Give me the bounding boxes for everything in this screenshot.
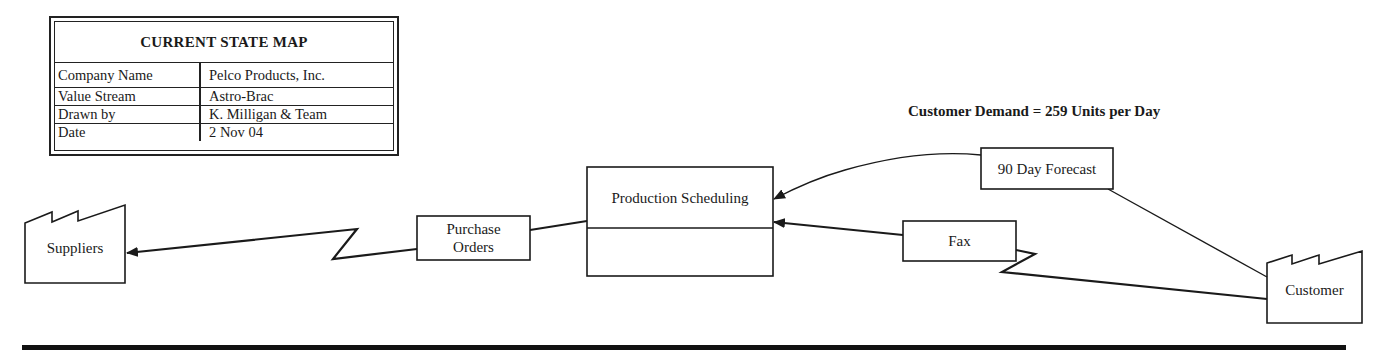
value-stream-label: Value Stream <box>55 88 200 106</box>
date-label: Date <box>55 124 200 142</box>
electronic-flow-customer-to-fax <box>1002 250 1267 299</box>
drawn-by-label: Drawn by <box>55 106 200 124</box>
bottom-rule <box>22 345 1346 350</box>
purchase-orders-line2: Orders <box>453 238 494 256</box>
fax-label: Fax <box>903 221 1016 261</box>
production-scheduling-label: Production Scheduling <box>587 167 773 228</box>
table-row: Date 2 Nov 04 <box>55 124 393 142</box>
title-block-table: Company Name Pelco Products, Inc. Value … <box>55 63 393 141</box>
date-value: 2 Nov 04 <box>200 124 393 142</box>
flow-customer-to-forecast <box>1108 189 1267 277</box>
customer-demand-label: Customer Demand = 259 Units per Day <box>908 103 1160 120</box>
value-stream-value: Astro-Brac <box>200 88 393 106</box>
forecast-label: 90 Day Forecast <box>981 148 1113 189</box>
electronic-flow-purchase-orders-to-suppliers <box>127 229 417 259</box>
purchase-orders-label: Purchase Orders <box>417 216 530 260</box>
table-row: Value Stream Astro-Brac <box>55 88 393 106</box>
table-row: Company Name Pelco Products, Inc. <box>55 63 393 88</box>
purchase-orders-line1: Purchase <box>446 220 500 238</box>
customer-label: Customer <box>1267 270 1362 310</box>
suppliers-label: Suppliers <box>25 228 125 268</box>
company-name-label: Company Name <box>55 63 200 88</box>
title-block-heading: CURRENT STATE MAP <box>55 22 393 63</box>
drawn-by-value: K. Milligan & Team <box>200 106 393 124</box>
flow-forecast-to-production <box>774 154 981 199</box>
title-block: CURRENT STATE MAP Company Name Pelco Pro… <box>49 16 399 156</box>
flow-production-to-purchase-orders <box>530 221 587 230</box>
flow-fax-to-production <box>774 222 903 235</box>
table-row: Drawn by K. Milligan & Team <box>55 106 393 124</box>
company-name-value: Pelco Products, Inc. <box>200 63 393 88</box>
